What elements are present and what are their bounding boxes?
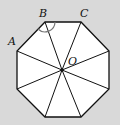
label-o: O [68, 55, 77, 68]
octagon-diagram: A B C O [0, 0, 120, 125]
label-b: B [38, 7, 47, 20]
label-c: C [80, 7, 89, 20]
label-a: A [7, 35, 16, 48]
center-point [60, 68, 64, 72]
